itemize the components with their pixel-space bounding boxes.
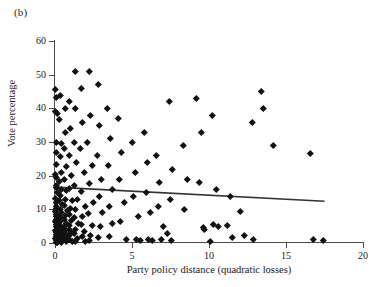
x-tick [363,243,364,248]
y-tick-label: 50 [22,70,46,80]
y-tick-label: 20 [22,171,46,181]
x-tick [132,243,133,248]
scatter-plot-area [55,41,363,243]
figure-panel-b: (b) 0102030405060 05101520 Party policy … [0,0,377,287]
y-tick-label: 60 [22,36,46,46]
y-axis-label: Vote percentage [6,59,17,169]
x-tick [286,243,287,248]
x-tick-label: 0 [42,250,68,261]
y-tick [49,41,54,42]
y-tick [49,75,54,76]
y-tick-label: 0 [22,238,46,248]
x-tick-label: 15 [273,250,299,261]
x-tick-label: 10 [196,250,222,261]
y-tick-label: 10 [22,204,46,214]
y-tick-label: 40 [22,103,46,113]
x-tick-label: 20 [350,250,376,261]
panel-label: (b) [14,6,27,18]
x-tick-label: 5 [119,250,145,261]
y-tick-label: 30 [22,137,46,147]
x-axis-label: Party policy distance (quadratic losses) [55,264,363,275]
